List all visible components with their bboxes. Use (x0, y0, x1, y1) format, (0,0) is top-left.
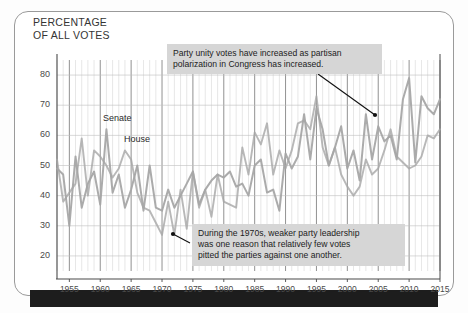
x-axis-tick-label: 2000 (330, 284, 364, 294)
chart-figure: PERCENTAGE OF ALL VOTES 2030405060708019… (0, 0, 468, 313)
annotation-1970s-arrow (173, 234, 190, 243)
y-axis-tick-label: 50 (26, 160, 50, 170)
x-axis-tick-label: 1995 (299, 284, 333, 294)
annotation-polarization: Party unity votes have increased as part… (167, 44, 382, 74)
x-axis-tick-label: 1960 (83, 284, 117, 294)
annotation-polarization-arrow (318, 74, 375, 115)
annotation-1970s: During the 1970s, weaker party leadershi… (192, 224, 405, 266)
y-axis-tick-label: 60 (26, 129, 50, 139)
series-label-senate: Senate (103, 113, 132, 123)
y-axis-tick-label: 80 (26, 69, 50, 79)
y-axis-tick-label: 70 (26, 99, 50, 109)
annotation-polarization-arrow-point (373, 113, 377, 117)
x-axis-tick-label: 1985 (238, 284, 272, 294)
x-axis-tick-label: 1965 (114, 284, 148, 294)
x-axis-tick-label: 1980 (207, 284, 241, 294)
x-axis-tick-label: 2010 (392, 284, 426, 294)
y-axis-tick-label: 40 (26, 190, 50, 200)
y-axis-tick-label: 30 (26, 220, 50, 230)
annotation-1970s-arrow-point (171, 232, 175, 236)
x-axis-tick-label: 1990 (269, 284, 303, 294)
x-axis-tick-label: 1970 (145, 284, 179, 294)
x-axis-tick-label: 2005 (361, 284, 395, 294)
series-label-house: House (124, 134, 150, 144)
x-axis-tick-label: 1955 (52, 284, 86, 294)
x-axis-tick-label: 2015 (423, 284, 457, 294)
x-axis-tick-label: 1975 (176, 284, 210, 294)
y-axis-tick-label: 20 (26, 250, 50, 260)
